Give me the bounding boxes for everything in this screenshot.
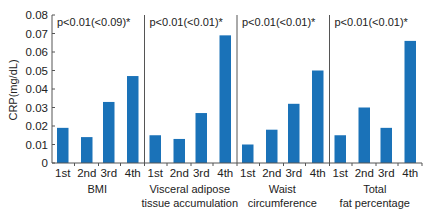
y-tick-label: 0.04 (26, 83, 49, 95)
bar (266, 130, 278, 163)
bar (196, 113, 208, 163)
bar (81, 137, 93, 163)
y-axis-label: CRP(mg/dL) (7, 59, 19, 120)
x-tick-label: 1st (55, 167, 71, 179)
x-tick-label: 4th (217, 167, 233, 179)
x-tick-label: 3rd (193, 167, 210, 179)
bar (150, 135, 162, 163)
bar-group-waist-circumference: p<0.01(<0.01)*1st2nd3rd4thWaistcircumfer… (237, 15, 330, 209)
bar-group-bmi: p<0.01(<0.09)*1st2nd3rd4thBMI (55, 16, 144, 195)
bar (242, 145, 254, 164)
x-tick-label: 1st (240, 167, 256, 179)
bar (57, 128, 69, 163)
bar-group-visceral-adipose-tissue-accumulation: p<0.01(<0.01)*1st2nd3rd4thVisceral adipo… (141, 15, 238, 209)
group-label: fat percentage (340, 197, 410, 209)
x-tick-label: 1st (333, 167, 349, 179)
group-label: Total (363, 183, 386, 195)
x-tick-label: 4th (310, 167, 326, 179)
bar (359, 108, 371, 164)
x-tick-label: 3rd (378, 167, 395, 179)
group-label: BMI (87, 183, 107, 195)
x-tick-label: 3rd (100, 167, 117, 179)
y-axis: 00.010.020.030.040.050.060.070.08 (26, 9, 55, 169)
x-tick-label: 2nd (355, 167, 374, 179)
group-label: tissue accumulation (141, 197, 238, 209)
bar (405, 41, 417, 163)
bar (103, 102, 115, 163)
p-value-annotation: p<0.01(<0.01)* (335, 16, 409, 28)
bar (312, 71, 324, 164)
p-value-annotation: p<0.01(<0.09)* (57, 16, 131, 28)
x-tick-label: 2nd (77, 167, 96, 179)
p-value-annotation: p<0.01(<0.01)* (150, 16, 224, 28)
crp-grouped-bar-chart: 00.010.020.030.040.050.060.070.08 CRP(mg… (0, 0, 434, 218)
bar (174, 139, 186, 163)
y-tick-label: 0 (42, 157, 48, 169)
x-tick-label: 2nd (262, 167, 281, 179)
x-tick-label: 4th (402, 167, 418, 179)
bar (288, 104, 300, 163)
y-tick-label: 0.02 (26, 120, 48, 132)
p-value-annotation: p<0.01(<0.01)* (242, 16, 316, 28)
y-tick-label: 0.01 (26, 139, 48, 151)
bar (127, 76, 139, 163)
y-tick-label: 0.07 (26, 28, 48, 40)
y-tick-label: 0.05 (26, 65, 48, 77)
group-label: Waist (269, 183, 296, 195)
y-tick-label: 0.08 (26, 9, 48, 21)
bar-groups: p<0.01(<0.09)*1st2nd3rd4thBMIp<0.01(<0.0… (55, 15, 422, 209)
bar (220, 35, 232, 163)
y-tick-label: 0.03 (26, 102, 48, 114)
group-label: circumference (248, 197, 317, 209)
bar (335, 135, 347, 163)
y-tick-label: 0.06 (26, 46, 48, 58)
bar (381, 128, 393, 163)
bar-group-total-fat-percentage: p<0.01(<0.01)*1st2nd3rd4thTotalfat perce… (330, 15, 423, 209)
x-tick-label: 1st (148, 167, 164, 179)
x-tick-label: 4th (125, 167, 141, 179)
x-tick-label: 2nd (170, 167, 189, 179)
x-tick-label: 3rd (285, 167, 302, 179)
group-label: Visceral adipose (149, 183, 230, 195)
